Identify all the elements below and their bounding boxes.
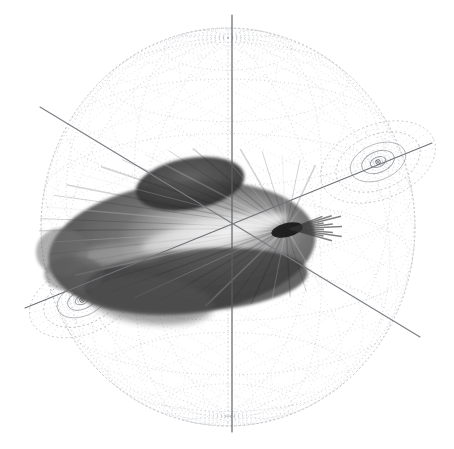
axis-lines-layer <box>0 0 454 449</box>
figure-canvas <box>0 0 454 449</box>
diagonal-axis-lower-left-to-upper-right <box>25 143 432 308</box>
diagonal-axis-upper-left-to-lower-right <box>40 107 420 337</box>
